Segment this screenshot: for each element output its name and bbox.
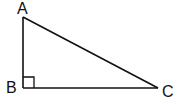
- right-angle-marker: [23, 77, 34, 88]
- vertex-label-a: A: [17, 0, 28, 17]
- vertex-label-c: C: [162, 83, 174, 100]
- right-triangle-diagram: A B C: [0, 0, 183, 104]
- vertex-label-b: B: [6, 79, 17, 96]
- side-ac-hypotenuse: [23, 17, 158, 88]
